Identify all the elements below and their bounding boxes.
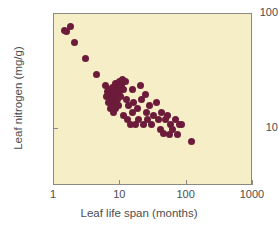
x-tick-label: 100 (161, 188, 211, 200)
data-point (153, 99, 160, 106)
scatter-plot-figure: 10100 1101001000 Leaf life span (months)… (0, 0, 278, 232)
data-point (143, 109, 150, 116)
data-point (129, 86, 136, 93)
x-tick-mark (119, 180, 120, 185)
x-axis-title: Leaf life span (months) (0, 207, 278, 219)
x-tick-mark (252, 180, 253, 185)
data-point (155, 116, 162, 123)
y-tick-label: 100 (234, 7, 278, 18)
data-point (174, 131, 181, 138)
data-point (120, 86, 127, 93)
data-point (82, 55, 89, 62)
x-tick-label: 1000 (227, 188, 277, 200)
y-tick-mark (53, 13, 58, 14)
data-point (148, 121, 155, 128)
data-points-layer (54, 14, 251, 184)
y-axis-title: Leaf nitrogen (mg/g) (12, 13, 24, 183)
data-point (142, 91, 149, 98)
x-tick-label: 10 (94, 188, 144, 200)
data-point (164, 112, 171, 119)
x-tick-mark (53, 180, 54, 185)
data-point (115, 102, 122, 109)
data-point (93, 71, 100, 78)
data-point (137, 82, 144, 89)
x-tick-mark (186, 180, 187, 185)
y-tick-label: 10 (234, 122, 278, 133)
y-tick-mark (53, 128, 58, 129)
data-point (178, 121, 185, 128)
data-point (134, 105, 141, 112)
data-point (188, 138, 195, 145)
data-point (122, 78, 129, 85)
plot-area (53, 13, 252, 185)
x-tick-label: 1 (28, 188, 78, 200)
data-point (67, 23, 74, 30)
data-point (71, 39, 78, 46)
